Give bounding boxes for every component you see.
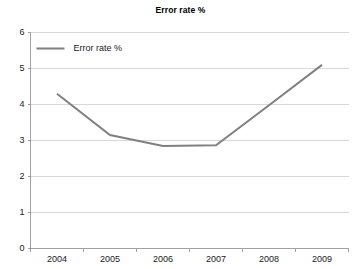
x-axis-tick-labels: 200420052006200720082009	[47, 254, 332, 264]
data-series-line	[57, 65, 322, 146]
chart-legend: Error rate %	[37, 43, 123, 53]
x-axis-tick-label: 2008	[259, 254, 279, 264]
data-series-group	[57, 65, 322, 146]
y-axis-tick-label: 1	[19, 207, 24, 217]
gridlines	[31, 33, 349, 213]
x-axis-ticks	[31, 249, 349, 252]
x-axis-tick-label: 2006	[153, 254, 173, 264]
y-axis-tick-label: 2	[19, 171, 24, 181]
x-axis-tick-label: 2005	[100, 254, 120, 264]
y-axis-tick-label: 4	[19, 99, 24, 109]
y-axis-ticks	[28, 33, 31, 249]
y-axis-tick-label: 0	[19, 243, 24, 253]
chart-container: Error rate % 0123456 2004200520062007200…	[0, 0, 361, 269]
y-axis-tick-label: 5	[19, 63, 24, 73]
y-axis-tick-labels: 0123456	[19, 27, 24, 253]
legend-label: Error rate %	[74, 43, 123, 53]
x-axis-tick-label: 2004	[47, 254, 67, 264]
y-axis-tick-label: 3	[19, 135, 24, 145]
chart-plot-area: 0123456 200420052006200720082009 Error r…	[0, 0, 361, 269]
x-axis-tick-label: 2007	[206, 254, 226, 264]
x-axis-tick-label: 2009	[312, 254, 332, 264]
y-axis-tick-label: 6	[19, 27, 24, 37]
